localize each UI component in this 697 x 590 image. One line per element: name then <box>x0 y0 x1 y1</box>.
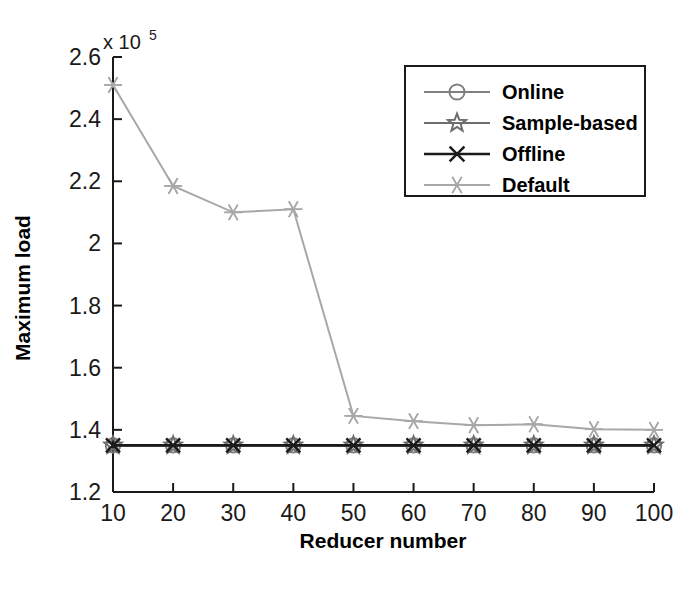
series-offline <box>106 438 661 452</box>
data-point-marker <box>224 205 242 221</box>
data-point-marker <box>465 417 483 433</box>
legend-label: Default <box>502 174 570 196</box>
data-point-marker <box>344 408 362 424</box>
y-axis-exponent-power: 5 <box>149 27 157 43</box>
y-tick-label: 1.2 <box>69 479 101 505</box>
x-tick-label: 10 <box>100 500 126 526</box>
legend-label: Online <box>502 81 564 103</box>
line-chart: x 10 5 1.21.41.61.822.22.42.6 1020304050… <box>0 0 697 590</box>
x-tick-label: 40 <box>281 500 307 526</box>
data-point-marker <box>405 413 423 429</box>
y-axis-ticks: 1.21.41.61.822.22.42.6 <box>69 44 122 505</box>
y-tick-label: 1.6 <box>69 355 101 381</box>
y-tick-label: 2 <box>88 230 101 256</box>
y-axis-exponent-base: x 10 <box>103 31 141 53</box>
y-axis-exponent-label: x 10 5 <box>103 27 157 53</box>
x-tick-label: 90 <box>581 500 607 526</box>
x-tick-label: 20 <box>160 500 186 526</box>
x-tick-label: 50 <box>341 500 367 526</box>
figure-panel: x 10 5 1.21.41.61.822.22.42.6 1020304050… <box>0 0 697 590</box>
y-axis-title: Maximum load <box>11 215 34 361</box>
x-tick-label: 100 <box>635 500 673 526</box>
data-point-marker <box>164 178 182 194</box>
y-tick-label: 2.4 <box>69 106 101 132</box>
y-tick-label: 1.8 <box>69 293 101 319</box>
x-tick-label: 60 <box>401 500 427 526</box>
y-tick-label: 2.6 <box>69 44 101 70</box>
x-tick-label: 70 <box>461 500 487 526</box>
data-point-marker <box>284 201 302 217</box>
legend-label: Sample-based <box>502 112 638 134</box>
x-axis-ticks: 102030405060708090100 <box>100 483 673 526</box>
y-tick-label: 1.4 <box>69 417 101 443</box>
legend[interactable]: OnlineSample-basedOfflineDefault <box>405 66 645 196</box>
x-tick-label: 30 <box>220 500 246 526</box>
y-tick-label: 2.2 <box>69 168 101 194</box>
legend-label: Offline <box>502 143 565 165</box>
x-tick-label: 80 <box>521 500 547 526</box>
data-point-marker <box>525 416 543 432</box>
x-axis-title: Reducer number <box>300 529 467 552</box>
